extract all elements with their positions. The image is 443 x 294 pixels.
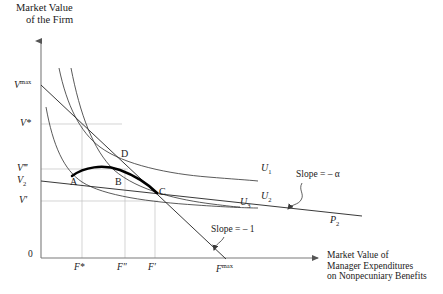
callout-slope1 [214, 237, 224, 250]
curve-label-p2: P2 [330, 214, 339, 227]
y-axis-title-line1: Market Value [16, 2, 73, 14]
y-axis-title-line2: of the Firm [16, 14, 73, 26]
curve-label-u2: U2 [261, 190, 271, 203]
point-label-b: B [115, 176, 122, 187]
x-tick-fstar: F* [74, 262, 85, 273]
axis-lines [41, 41, 318, 258]
y-tick-vprime: V′ [19, 194, 27, 205]
point-label-d: D [121, 148, 128, 159]
y-axis-title: Market Value of the Firm [16, 2, 73, 26]
x-axis-title-line3: on Nonpecuniary Benefits [327, 271, 427, 282]
annotation-slope-minus-one: Slope = – 1 [211, 224, 255, 235]
y-tick-vstar: V* [20, 117, 31, 128]
curve-label-u3: U3 [240, 196, 250, 209]
x-axis-title-line1: Market Value of [327, 250, 427, 261]
x-tick-fprime: F′ [148, 262, 156, 273]
gridlines [41, 124, 158, 258]
curve-u1 [59, 68, 258, 181]
annotation-slope-alpha: Slope = – α [296, 169, 340, 180]
origin-label: 0 [28, 249, 33, 260]
p2-line-slope-minus-alpha [41, 181, 362, 216]
y-tick-vtripleprime: V‴ [17, 162, 27, 173]
x-tick-fdoubleprime: F″ [117, 262, 127, 273]
x-axis-title: Market Value of Manager Expenditures on … [327, 250, 427, 282]
y-tick-v2: V2 [17, 174, 26, 187]
y-tick-vmax: Vmax [14, 78, 31, 91]
point-label-c: C [159, 186, 166, 197]
budget-line-slope-minus-1 [41, 85, 226, 259]
callout-alpha [288, 183, 302, 209]
curve-label-u1: U1 [261, 162, 271, 175]
x-axis-title-line2: Manager Expenditures [327, 261, 427, 272]
figure-canvas: Market Value of the Firm Market Value of… [0, 0, 443, 294]
point-label-a: A [70, 176, 77, 187]
x-tick-fmax: Fmax [216, 262, 233, 275]
